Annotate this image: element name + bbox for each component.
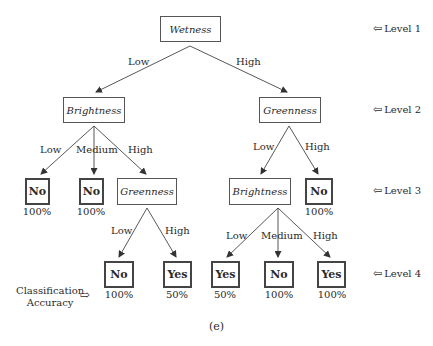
node-label: Wetness <box>169 24 211 35</box>
leaf-no-gg-low: No <box>104 261 134 288</box>
node-brightness-l3: Brightness <box>229 178 291 205</box>
level-marker-2: ⇦Level 2 <box>373 103 421 116</box>
edge-label-g-high: High <box>305 141 330 152</box>
node-label: Greenness <box>263 105 317 116</box>
edge-label-root-low: Low <box>128 56 149 67</box>
level-marker-4: ⇦Level 4 <box>373 267 421 280</box>
accuracy-g-high: 100% <box>299 206 339 217</box>
accuracy-b-low: 100% <box>17 206 57 217</box>
edge-label-bb-low: Low <box>226 230 247 241</box>
node-greenness-l2: Greenness <box>259 97 321 123</box>
leaf-no-bb-medium: No <box>264 261 294 288</box>
accuracy-bb-low: 50% <box>205 289 245 300</box>
right-arrow-icon: ⇨ <box>80 288 90 302</box>
leaf-label: No <box>29 185 46 198</box>
node-brightness-l2: Brightness <box>63 97 125 123</box>
level-label: Level 3 <box>384 185 421 196</box>
edge-label-root-high: High <box>236 56 261 67</box>
node-label: Brightness <box>67 105 122 116</box>
level-label: Level 2 <box>384 104 421 115</box>
leaf-label: No <box>110 268 127 281</box>
leaf-yes-bb-high: Yes <box>317 261 346 288</box>
accuracy-label-line1: Classification <box>16 285 84 297</box>
left-arrow-icon: ⇦ <box>373 103 382 116</box>
level-marker-1: ⇦Level 1 <box>373 22 421 35</box>
level-marker-3: ⇦Level 3 <box>373 184 421 197</box>
accuracy-gg-high: 50% <box>157 289 197 300</box>
leaf-label: Yes <box>167 268 187 281</box>
edge-label-g-low: Low <box>253 141 274 152</box>
node-label: Greenness <box>120 186 174 197</box>
leaf-yes-bb-low: Yes <box>211 261 240 288</box>
level-label: Level 4 <box>384 268 421 279</box>
edge-label-bb-medium: Medium <box>261 230 303 241</box>
leaf-label: Yes <box>321 268 341 281</box>
edge-label-b-low: Low <box>40 144 61 155</box>
accuracy-b-medium: 100% <box>71 206 111 217</box>
figure-caption: (e) <box>0 320 433 333</box>
edge-label-bb-high: High <box>313 230 338 241</box>
edge-label-b-medium: Medium <box>76 144 118 155</box>
accuracy-bb-high: 100% <box>312 289 352 300</box>
leaf-label: No <box>83 185 100 198</box>
level-label: Level 1 <box>384 23 421 34</box>
left-arrow-icon: ⇦ <box>373 267 382 280</box>
leaf-label: No <box>270 268 287 281</box>
left-arrow-icon: ⇦ <box>373 22 382 35</box>
leaf-no-g-high: No <box>305 178 333 205</box>
node-wetness: Wetness <box>160 16 221 42</box>
leaf-no-b-medium: No <box>79 178 104 205</box>
leaf-no-b-low: No <box>25 178 50 205</box>
left-arrow-icon: ⇦ <box>373 184 382 197</box>
accuracy-label: Classification Accuracy <box>16 285 84 309</box>
accuracy-label-line2: Accuracy <box>16 297 84 309</box>
accuracy-gg-low: 100% <box>99 289 139 300</box>
node-label: Brightness <box>233 186 288 197</box>
leaf-label: No <box>310 185 327 198</box>
node-greenness-l3: Greenness <box>117 178 177 205</box>
edge-label-b-high: High <box>128 144 153 155</box>
edge-label-gg-low: Low <box>111 225 132 236</box>
leaf-label: Yes <box>215 268 235 281</box>
accuracy-bb-medium: 100% <box>259 289 299 300</box>
leaf-yes-gg-high: Yes <box>163 261 192 288</box>
edge-label-gg-high: High <box>165 225 190 236</box>
